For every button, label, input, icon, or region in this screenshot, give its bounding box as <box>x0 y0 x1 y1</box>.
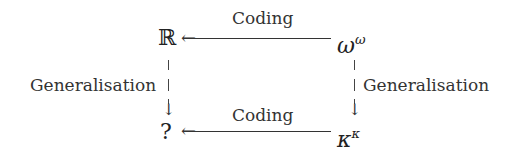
node-generalised-baire-space: κκ <box>337 123 360 151</box>
bottom-arrow-shaft <box>188 131 331 132</box>
top-coding-label: Coding <box>232 10 293 27</box>
right-down-arrow-icon: ↓ <box>348 102 361 118</box>
node-baire-space: ωω <box>337 29 366 57</box>
right-generalisation-label: Generalisation <box>363 77 489 94</box>
left-down-arrow-icon: ↓ <box>162 102 175 118</box>
node-reals: ℝ <box>158 27 176 49</box>
node-baire-exponent: ω <box>355 32 366 47</box>
node-kappa-base: κ <box>337 127 351 152</box>
left-generalisation-label: Generalisation <box>30 77 156 94</box>
node-baire-base: ω <box>337 33 355 58</box>
node-unknown: ? <box>160 121 172 143</box>
left-dash-2 <box>168 79 169 91</box>
node-kappa-exponent: κ <box>351 126 360 141</box>
bottom-coding-label: Coding <box>232 107 293 124</box>
top-arrow-shaft <box>188 38 331 39</box>
right-dash-1 <box>354 60 355 70</box>
right-dash-2 <box>354 79 355 91</box>
left-dash-1 <box>168 60 169 70</box>
